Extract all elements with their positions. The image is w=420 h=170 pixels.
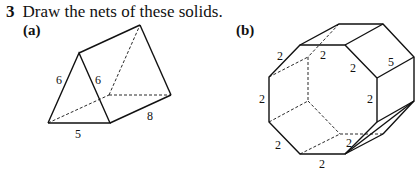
prism-b-dim-left: 2 [259,92,265,106]
octagonal-prism-figure [269,24,414,154]
prism-b-dim-bottom-left: 2 [275,138,281,152]
prism-b-dim-bottom: 2 [319,157,325,170]
prism-a-dim-base: 5 [75,127,81,141]
prism-b-dim-top-left: 2 [277,49,283,63]
prism-b-dim-top: 2 [320,48,326,62]
prism-b-dim-top-right: 2 [350,61,356,75]
prism-b-dim-depth: 5 [388,55,394,69]
prism-b-dim-right: 2 [367,92,373,106]
prism-a-dim-left: 6 [56,73,62,87]
prism-a-dim-length: 8 [147,109,153,123]
prism-b-dim-bottom-right: 2 [346,136,352,150]
figures: 6 6 5 8 2 2 2 5 2 2 2 2 2 [0,0,420,170]
prism-a-dim-right: 6 [95,73,101,87]
